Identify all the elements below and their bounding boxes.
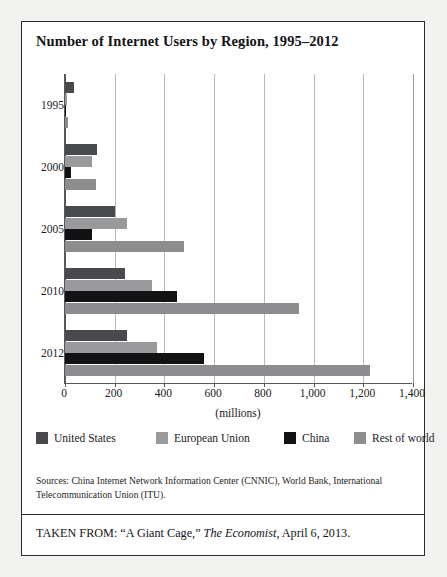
bar-2010-european-union — [65, 280, 152, 291]
gridline-1400 — [413, 74, 414, 383]
bar-1995-rest-of-world — [65, 117, 68, 128]
bar-2012-european-union — [65, 342, 157, 353]
value-tick-label-1000: 1,000 — [300, 387, 326, 399]
legend-swatch-united-states — [36, 432, 48, 444]
value-tick-label-200: 200 — [105, 387, 122, 399]
value-tick-label-800: 800 — [254, 387, 271, 399]
chart-plot: 19952000200520102012 02004006008001,0001… — [22, 74, 424, 419]
value-tick-label-400: 400 — [155, 387, 172, 399]
legend-label-united-states: United States — [54, 432, 116, 444]
category-label-2005: 2005 — [22, 223, 64, 235]
gridline-600 — [214, 74, 215, 383]
legend-swatch-china — [284, 432, 296, 444]
legend-label-china: China — [302, 432, 329, 444]
gridline-800 — [264, 74, 265, 383]
category-axis-labels: 19952000200520102012 — [22, 74, 64, 384]
bar-2012-united-states — [65, 330, 127, 341]
value-tick-label-1200: 1,200 — [349, 387, 375, 399]
taken-from-suffix: , April 6, 2013. — [276, 526, 350, 540]
value-tick-label-1400: 1,400 — [399, 387, 425, 399]
value-axis-labels: 02004006008001,0001,2001,400 — [64, 387, 412, 405]
page-title: Number of Internet Users by Region, 1995… — [36, 33, 412, 50]
bar-2000-rest-of-world — [65, 179, 96, 190]
sources-note: Sources: China Internet Network Informat… — [36, 474, 410, 502]
legend-item-united-states: United States — [36, 432, 116, 444]
gridline-400 — [164, 74, 165, 383]
legend-item-european-union: European Union — [156, 432, 250, 444]
divider — [22, 514, 424, 515]
figure-page: Number of Internet Users by Region, 1995… — [0, 0, 447, 577]
legend-swatch-rest-of-world — [354, 432, 366, 444]
bar-2010-united-states — [65, 268, 125, 279]
category-label-2010: 2010 — [22, 285, 64, 297]
category-label-2000: 2000 — [22, 161, 64, 173]
legend-swatch-european-union — [156, 432, 168, 444]
bar-2000-united-states — [65, 144, 97, 155]
value-tick-label-600: 600 — [205, 387, 222, 399]
figure-panel: Number of Internet Users by Region, 1995… — [21, 21, 425, 556]
bar-2010-rest-of-world — [65, 303, 299, 314]
bar-2012-rest-of-world — [65, 365, 370, 376]
plot-area — [64, 74, 412, 384]
bar-2010-china — [65, 291, 177, 302]
category-label-1995: 1995 — [22, 99, 64, 111]
legend-label-rest-of-world: Rest of world — [372, 432, 435, 444]
bar-2005-china — [65, 229, 92, 240]
bar-2005-united-states — [65, 206, 115, 217]
legend-label-european-union: European Union — [174, 432, 250, 444]
legend-item-rest-of-world: Rest of world — [354, 432, 435, 444]
chart-legend: United StatesEuropean UnionChinaRest of … — [36, 432, 412, 452]
taken-from-prefix: TAKEN FROM: “A Giant Cage,” — [36, 526, 204, 540]
bar-1995-united-states — [65, 82, 74, 93]
bar-2000-china — [65, 167, 71, 178]
taken-from-note: TAKEN FROM: “A Giant Cage,” The Economis… — [36, 525, 412, 541]
legend-item-china: China — [284, 432, 329, 444]
bar-2005-rest-of-world — [65, 241, 184, 252]
category-label-2012: 2012 — [22, 347, 64, 359]
gridline-1200 — [363, 74, 364, 383]
gridline-1000 — [314, 74, 315, 383]
axis-unit-label: (millions) — [64, 407, 412, 419]
value-tick-label-0: 0 — [61, 387, 67, 399]
bar-1995-european-union — [65, 94, 67, 105]
bar-1995-china — [65, 105, 66, 116]
bar-2005-european-union — [65, 218, 127, 229]
bar-2000-european-union — [65, 156, 92, 167]
taken-from-publication: The Economist — [204, 526, 277, 540]
bar-2012-china — [65, 353, 204, 364]
